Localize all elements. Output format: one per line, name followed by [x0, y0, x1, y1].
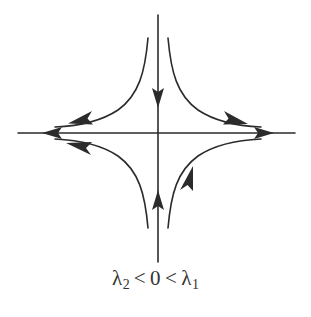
caption-eigenvalue-condition: λ2<0<λ1 — [0, 266, 311, 293]
first-inequality-operator: < — [134, 266, 146, 290]
trajectory-lower-right — [168, 139, 261, 228]
zero-value: 0 — [150, 266, 161, 290]
arrowhead-trajectory-upper-right — [223, 111, 248, 125]
second-inequality-operator: < — [165, 266, 177, 290]
lambda-1-subscript: 1 — [192, 277, 199, 292]
arrowhead-trajectory-lower-left — [66, 142, 92, 155]
arrowhead-trajectory-upper-left — [68, 111, 93, 125]
lambda-2-subscript: 2 — [123, 277, 130, 292]
trajectory-lower-left — [55, 139, 148, 228]
arrowhead-trajectory-lower-right — [180, 166, 193, 191]
lambda-2-symbol: λ — [112, 266, 123, 290]
trajectory-upper-right — [168, 38, 261, 127]
phase-portrait-figure: λ2<0<λ1 — [0, 0, 311, 317]
trajectory-upper-left — [55, 38, 148, 127]
lambda-1-symbol: λ — [181, 266, 192, 290]
